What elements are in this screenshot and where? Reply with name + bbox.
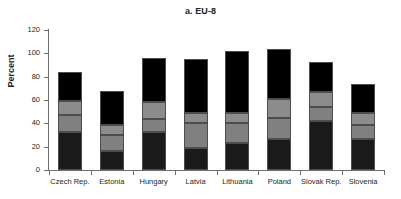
bar-segment (267, 118, 291, 139)
bar-estonia (100, 91, 124, 170)
bar-segment (58, 132, 82, 171)
bar-czech-rep (58, 72, 82, 170)
bar-segment (309, 62, 333, 92)
bar-segment (351, 113, 375, 125)
bar-segment (351, 139, 375, 171)
bar-segment (58, 101, 82, 115)
bar-segment (225, 51, 249, 113)
bar-segment (142, 132, 166, 171)
x-axis-tick (133, 171, 134, 175)
bar-lithuania (225, 51, 249, 170)
x-axis-tick-label: Latvia (175, 178, 217, 186)
bar-segment (225, 113, 249, 124)
x-axis-tick-label: Lithuania (217, 178, 259, 186)
chart-title: a. EU-8 (0, 6, 401, 16)
plot-area (49, 30, 384, 170)
bar-segment (309, 121, 333, 170)
x-axis-tick-label: Czech Rep. (49, 178, 91, 186)
bar-slovak-rep (309, 62, 333, 170)
y-axis-tick-label: 100 (0, 49, 40, 57)
bar-slovenia (351, 84, 375, 170)
bar-segment (267, 49, 291, 99)
x-axis-tick (258, 171, 259, 175)
bar-segment (267, 139, 291, 171)
x-axis-tick (49, 171, 50, 175)
bar-segment (142, 102, 166, 118)
x-axis-tick (175, 171, 176, 175)
y-axis-tick-label: 20 (0, 143, 40, 151)
bar-segment (142, 119, 166, 132)
x-axis-tick (300, 171, 301, 175)
bar-segment (184, 123, 208, 148)
bar-segment (184, 148, 208, 170)
x-axis-tick (342, 171, 343, 175)
bar-hungary (142, 58, 166, 170)
x-axis-tick-label: Hungary (133, 178, 175, 186)
x-axis-tick-label: Slovak Rep. (300, 178, 342, 186)
bar-segment (309, 107, 333, 121)
x-axis-tick-label: Poland (258, 178, 300, 186)
bar-segment (58, 72, 82, 101)
bar-segment (351, 125, 375, 139)
bar-segment (351, 84, 375, 113)
bar-segment (184, 113, 208, 124)
bar-segment (100, 125, 124, 136)
y-axis-tick-label: 80 (0, 73, 40, 81)
bar-segment (100, 91, 124, 125)
x-axis-tick-label: Slovenia (342, 178, 384, 186)
y-axis-tick-label: 0 (0, 166, 40, 174)
bar-segment (309, 92, 333, 107)
chart-container: a. EU-8 Percent 020406080100120 Czech Re… (0, 0, 401, 199)
bar-segment (184, 59, 208, 113)
x-axis-tick-label: Estonia (91, 178, 133, 186)
bar-segment (58, 115, 82, 131)
x-axis-tick (217, 171, 218, 175)
y-axis-tick-label: 60 (0, 96, 40, 104)
y-axis-tick-label: 120 (0, 26, 40, 34)
bar-latvia (184, 59, 208, 170)
x-axis-tick (91, 171, 92, 175)
bar-segment (100, 151, 124, 170)
bar-segment (225, 123, 249, 143)
bar-segment (267, 99, 291, 118)
bar-segment (142, 58, 166, 102)
y-axis-tick-label: 40 (0, 119, 40, 127)
bar-segment (100, 135, 124, 151)
bar-poland (267, 49, 291, 170)
bar-segment (225, 143, 249, 170)
x-axis-tick (384, 171, 385, 175)
